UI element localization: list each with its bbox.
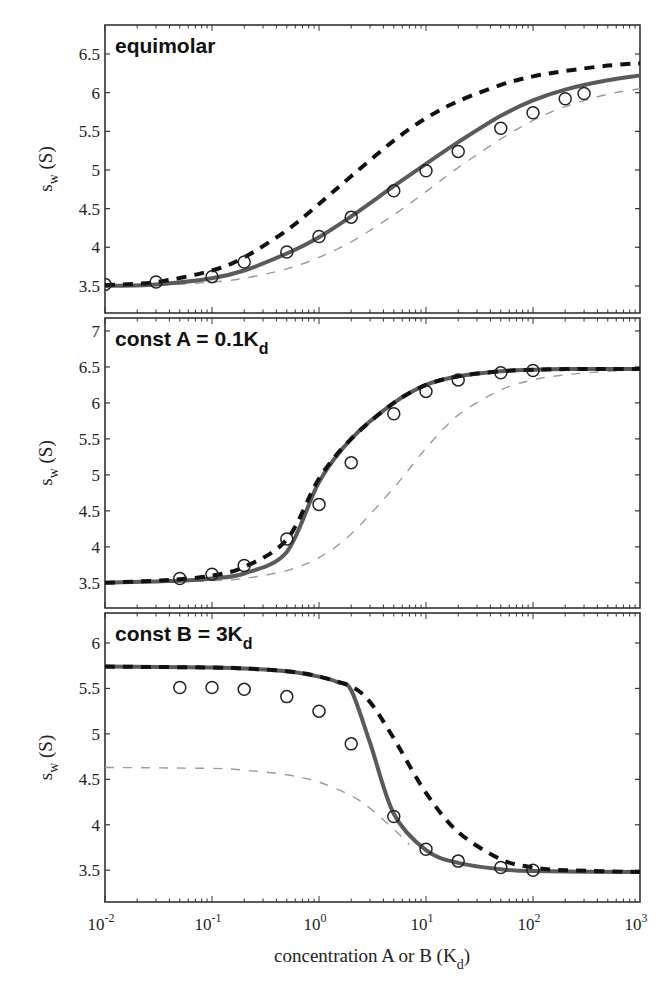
panel-equimolar: 3.544.555.566.5sw (S)equimolar	[35, 25, 640, 313]
data-point-marker	[420, 165, 432, 177]
x-tick-label: 10-2	[88, 911, 115, 934]
y-tick-label: 5	[92, 725, 101, 744]
data-point-marker	[420, 385, 432, 397]
y-tick-label: 5.5	[79, 122, 100, 141]
y-axis-label: sw (S)	[35, 735, 61, 781]
y-tick-label: 3.5	[79, 861, 100, 880]
data-point-marker	[452, 145, 464, 157]
data-point-marker	[495, 122, 507, 134]
data-point-marker	[527, 107, 539, 119]
data-point-marker	[281, 533, 293, 545]
y-tick-label: 3.5	[79, 277, 100, 296]
data-point-marker	[238, 683, 250, 695]
y-tick-label: 6	[92, 394, 101, 413]
thin-dashed-line	[105, 370, 640, 583]
y-tick-label: 5.5	[79, 430, 100, 449]
data-point-marker	[313, 498, 325, 510]
y-tick-label: 6.5	[79, 45, 100, 64]
data-point-marker	[206, 682, 218, 694]
axes-frame	[105, 318, 640, 608]
panel-const-a: 3.544.555.566.57sw (S)const A = 0.1Kd	[35, 318, 640, 608]
y-tick-label: 4.5	[79, 770, 100, 789]
data-point-marker	[345, 738, 357, 750]
data-point-marker	[313, 705, 325, 717]
y-tick-label: 7	[92, 322, 101, 341]
solid-fit-line	[105, 667, 640, 872]
y-tick-label: 4.5	[79, 200, 100, 219]
solid-fit-line	[105, 76, 640, 286]
y-axis-label: sw (S)	[35, 146, 61, 192]
thin-dashed-line	[105, 768, 409, 845]
x-tick-label: 10-1	[195, 911, 222, 934]
y-tick-label: 4.5	[79, 502, 100, 521]
y-tick-label: 3.5	[79, 574, 100, 593]
y-tick-label: 4	[92, 538, 101, 557]
data-point-marker	[388, 408, 400, 420]
data-point-marker	[345, 457, 357, 469]
x-tick-label: 103	[625, 911, 648, 934]
panel-title: const B = 3Kd	[115, 622, 253, 652]
x-tick-label: 102	[518, 911, 541, 934]
y-tick-label: 6	[92, 634, 101, 653]
panel-const-b: 3.544.555.56sw (S)const B = 3Kd	[35, 613, 640, 902]
y-tick-label: 5	[92, 161, 101, 180]
thick-dashed-line	[105, 667, 640, 872]
data-point-marker	[174, 682, 186, 694]
data-point-marker	[578, 87, 590, 99]
figure: 3.544.555.566.5sw (S)equimolar 3.544.555…	[0, 0, 672, 987]
y-tick-label: 6.5	[79, 358, 100, 377]
thick-dashed-line	[105, 369, 640, 583]
y-tick-label: 4	[92, 816, 101, 835]
x-axis-tick-labels: 10-210-1100101102103	[88, 911, 648, 934]
panel-title: equimolar	[115, 34, 215, 57]
x-axis-label: concentration A or B (Kd)	[274, 945, 470, 972]
y-tick-label: 5	[92, 466, 101, 485]
y-tick-label: 5.5	[79, 679, 100, 698]
data-point-marker	[238, 256, 250, 268]
y-axis-label: sw (S)	[35, 440, 61, 486]
y-tick-label: 4	[92, 238, 101, 257]
axes-frame	[105, 25, 640, 313]
axes-frame	[105, 613, 640, 902]
panel-title: const A = 0.1Kd	[115, 327, 269, 357]
data-point-marker	[281, 691, 293, 703]
x-tick-label: 101	[411, 911, 434, 934]
x-tick-label: 100	[304, 911, 327, 934]
y-tick-label: 6	[92, 84, 101, 103]
thin-dashed-line	[105, 89, 640, 286]
solid-fit-line	[105, 369, 640, 583]
data-point-marker	[559, 93, 571, 105]
